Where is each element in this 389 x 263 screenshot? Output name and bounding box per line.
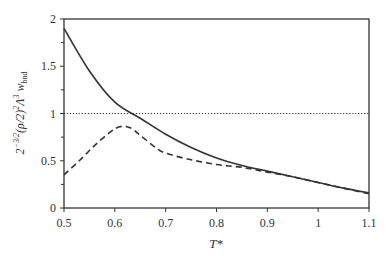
y-axis-label: 2−3/2(ρ/2)2Λ3 wbnd [12, 72, 29, 155]
x-axis-ticks: 0.50.60.70.80.911.1 [57, 208, 377, 230]
chart: 00.511.52 0.50.60.70.80.911.1 T* 2−3/2(ρ… [0, 0, 389, 263]
y-tick-label: 2 [50, 12, 56, 26]
y-tick-label: 0 [50, 201, 56, 215]
x-tick-label: 0.5 [57, 216, 72, 230]
x-tick-label: 1 [315, 216, 321, 230]
series-lines [64, 28, 369, 193]
y-tick-label: 1 [50, 107, 56, 121]
x-tick-label: 0.6 [107, 216, 122, 230]
x-tick-label: 0.7 [158, 216, 173, 230]
x-tick-label: 1.1 [362, 216, 377, 230]
x-tick-label: 0.9 [260, 216, 275, 230]
y-tick-label: 0.5 [41, 154, 56, 168]
svg-text:2−3/2(ρ/2)2Λ3 wbnd: 2−3/2(ρ/2)2Λ3 wbnd [12, 72, 29, 155]
x-tick-label: 0.8 [209, 216, 224, 230]
y-tick-label: 1.5 [41, 59, 56, 73]
y-axis-ticks: 00.511.52 [41, 12, 64, 215]
series-solid-line [64, 28, 369, 192]
x-axis-label: T* [209, 236, 223, 251]
